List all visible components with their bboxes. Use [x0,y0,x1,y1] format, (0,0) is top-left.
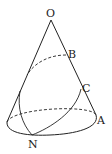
label-B: B [68,48,76,61]
label-A: A [96,114,106,127]
curve-N-C [32,89,81,135]
cone-diagram: O B C A N [0,0,112,154]
generator-left [7,20,51,122]
label-O: O [46,7,55,20]
label-C: C [82,82,90,95]
generator-OA [51,20,96,115]
label-N: N [28,138,38,151]
arc-B-dashed [27,55,66,75]
